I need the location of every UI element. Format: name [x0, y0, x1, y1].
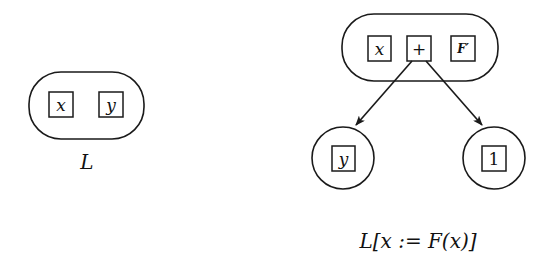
child-node-y-label: y: [338, 149, 349, 169]
right-cell-fprime-label: F′: [456, 42, 470, 56]
child-node-y: y: [312, 127, 374, 189]
left-container: [29, 72, 144, 139]
left-structure: x y L: [29, 72, 144, 174]
diagram-canvas: x y L x + F′ y: [0, 0, 555, 275]
child-node-1-label: 1: [489, 149, 500, 169]
right-cell-plus-label: +: [412, 39, 426, 59]
left-cell-x-label: x: [56, 95, 66, 115]
right-cell-fprime: F′: [451, 36, 475, 61]
left-cell-x: x: [49, 92, 73, 117]
right-structure: x + F′ y 1 L[x := F(x)]: [312, 14, 525, 253]
left-cell-y: y: [99, 92, 123, 117]
arrow-to-y: [356, 61, 412, 125]
left-cell-y-label: y: [105, 95, 116, 115]
right-cell-x: x: [368, 36, 391, 61]
child-node-1: 1: [463, 127, 525, 189]
arrow-to-1: [426, 61, 482, 125]
left-caption: L: [79, 150, 93, 174]
right-cell-plus: +: [407, 36, 431, 61]
right-caption: L[x := F(x)]: [358, 229, 476, 253]
right-cell-x-label: x: [375, 39, 385, 59]
